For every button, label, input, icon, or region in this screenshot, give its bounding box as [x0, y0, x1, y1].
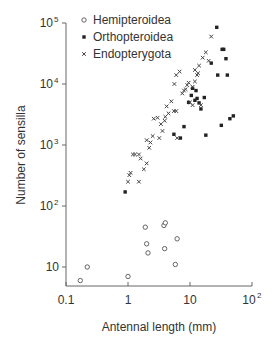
data-point: [204, 51, 208, 55]
x-tick-label: 10: [183, 293, 197, 307]
x-cross-marker-icon: [82, 52, 86, 56]
data-point: [207, 59, 211, 63]
data-point: [144, 242, 148, 246]
scatter-chart: 101021031041050.1110102 HemipteroideaOrt…: [0, 0, 274, 341]
data-point: [175, 136, 179, 140]
data-point: [85, 265, 89, 269]
x-tick-label: 0.1: [58, 293, 75, 307]
legend-label: Orthopteroidea: [93, 30, 173, 44]
x-tick-exponent: 2: [257, 291, 262, 300]
data-point: [174, 73, 178, 77]
data-point: [161, 129, 165, 133]
y-tick-label: 10: [40, 138, 54, 152]
data-point: [145, 162, 149, 166]
y-tick-label: 10: [40, 77, 54, 91]
data-point: [182, 125, 185, 128]
data-point: [190, 94, 193, 97]
data-point: [194, 89, 197, 92]
data-point: [165, 105, 169, 109]
legend-label: Hemipteroidea: [93, 13, 171, 27]
data-point: [193, 80, 197, 84]
data-point: [123, 190, 126, 193]
x-tick-label: 1: [125, 293, 132, 307]
x-axis-title: Antennal length (mm): [102, 320, 217, 334]
data-point: [228, 117, 231, 120]
data-point: [222, 48, 225, 51]
data-point: [216, 73, 219, 76]
data-point: [199, 107, 202, 110]
data-point: [184, 87, 188, 91]
y-tick-exponent: 5: [54, 15, 59, 24]
data-point: [146, 251, 150, 255]
data-point: [126, 274, 130, 278]
data-point: [158, 136, 162, 140]
data-point: [224, 57, 227, 60]
data-point: [145, 138, 149, 142]
data-point: [172, 133, 175, 136]
data-point: [143, 225, 147, 229]
data-point: [151, 134, 155, 138]
data-point: [137, 180, 141, 184]
y-tick-label: 10: [40, 199, 54, 213]
data-point: [232, 114, 235, 117]
data-point: [209, 35, 213, 39]
data-point: [170, 100, 174, 104]
data-point: [197, 64, 201, 68]
data-point: [191, 103, 195, 107]
data-point: [174, 109, 178, 113]
data-point: [179, 136, 182, 139]
data-point: [159, 122, 163, 126]
data-point: [220, 124, 223, 127]
data-point: [178, 70, 182, 74]
data-point: [173, 262, 177, 266]
data-point: [133, 153, 137, 157]
data-point: [163, 221, 167, 225]
data-point: [139, 157, 143, 161]
legend: HemipteroideaOrthopteroideaEndopterygota: [82, 13, 174, 61]
data-point: [175, 237, 179, 241]
y-tick-label: 10: [46, 260, 60, 274]
data-point: [126, 180, 130, 184]
open-circle-marker-icon: [82, 18, 86, 22]
y-tick-exponent: 2: [54, 198, 59, 207]
data-point: [149, 141, 153, 145]
data-point: [162, 246, 166, 250]
series-hemipteroidea: [78, 221, 179, 283]
data-point: [163, 119, 167, 123]
data-point: [226, 73, 229, 76]
data-point: [156, 116, 160, 120]
data-point: [203, 96, 206, 99]
data-point: [173, 82, 177, 86]
data-point: [147, 146, 151, 150]
data-points: [78, 26, 235, 283]
data-point: [201, 56, 205, 60]
data-point: [142, 167, 146, 171]
data-point: [78, 278, 82, 282]
data-point: [215, 26, 218, 29]
y-tick-label: 10: [40, 16, 54, 30]
y-tick-exponent: 4: [54, 76, 59, 85]
data-point: [204, 133, 207, 136]
legend-label: Endopterygota: [93, 47, 171, 61]
filled-square-marker-icon: [82, 35, 85, 38]
y-tick-exponent: 3: [54, 137, 59, 146]
data-point: [199, 103, 203, 107]
data-point: [193, 68, 197, 72]
y-axis-title: Number of sensilla: [14, 105, 28, 205]
data-point: [164, 115, 168, 119]
data-point: [137, 153, 141, 157]
data-point: [167, 112, 171, 116]
x-tick-label: 10: [242, 293, 256, 307]
data-point: [195, 97, 198, 100]
data-point: [152, 117, 156, 121]
